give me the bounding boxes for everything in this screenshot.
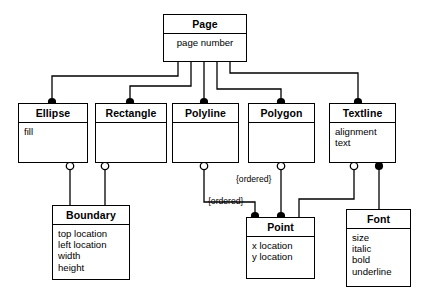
attribute-item: fill	[24, 126, 87, 137]
uml-class-diagram: Page page number Ellipse fill Rectangle …	[0, 0, 425, 303]
class-attributes-boundary: top location left location width height	[53, 225, 129, 275]
class-box-polyline[interactable]: Polyline	[172, 103, 239, 163]
class-attributes-textline: alignment text	[330, 123, 395, 150]
class-name-point: Point	[247, 218, 314, 237]
aggregation-marker-ellipse	[66, 162, 73, 169]
constraint-label-ordered-polyline: {ordered}	[208, 196, 243, 206]
class-box-page[interactable]: Page page number	[163, 14, 247, 62]
edge-page-rectangle	[130, 62, 191, 103]
edge-page-textline	[230, 62, 358, 103]
attribute-item: underline	[352, 266, 410, 277]
aggregation-markers	[66, 162, 357, 169]
class-name-page: Page	[164, 15, 246, 34]
aggregation-marker-polyline	[200, 162, 207, 169]
edge-polyline-point	[204, 163, 255, 217]
class-box-textline[interactable]: Textline alignment text	[329, 103, 396, 163]
class-name-font: Font	[347, 210, 410, 229]
aggregation-marker-rectangle	[101, 162, 108, 169]
attribute-item: height	[58, 262, 129, 273]
class-attributes-polyline	[173, 123, 238, 128]
class-name-boundary: Boundary	[53, 206, 129, 225]
edge-page-ellipse	[52, 62, 178, 103]
class-name-ellipse: Ellipse	[19, 104, 87, 123]
aggregation-marker-polygon	[277, 162, 284, 169]
attribute-item: x location	[252, 240, 314, 251]
attribute-item: page number	[164, 37, 246, 48]
class-box-rectangle[interactable]: Rectangle	[95, 103, 167, 163]
class-name-polygon: Polygon	[249, 104, 314, 123]
attribute-item: alignment	[335, 126, 395, 137]
class-box-ellipse[interactable]: Ellipse fill	[18, 103, 88, 163]
class-box-font[interactable]: Font size italic bold underline	[346, 209, 411, 287]
class-attributes-point: x location y location	[247, 237, 314, 264]
class-attributes-polygon	[249, 123, 314, 128]
attribute-item: bold	[352, 254, 410, 265]
class-attributes-font: size italic bold underline	[347, 229, 410, 279]
constraint-label-ordered-polygon: {ordered}	[236, 174, 271, 184]
class-name-rectangle: Rectangle	[96, 104, 166, 123]
class-name-polyline: Polyline	[173, 104, 238, 123]
class-box-point[interactable]: Point x location y location	[246, 217, 315, 279]
attribute-item: italic	[352, 243, 410, 254]
attribute-item: size	[352, 232, 410, 243]
attribute-item: width	[58, 250, 129, 261]
attribute-item: y location	[252, 251, 314, 262]
attribute-item: left location	[58, 239, 129, 250]
class-box-boundary[interactable]: Boundary top location left location widt…	[52, 205, 130, 280]
class-attributes-ellipse: fill	[19, 123, 87, 139]
class-attributes-rectangle	[96, 123, 166, 128]
class-name-textline: Textline	[330, 104, 395, 123]
aggregation-marker-textline	[350, 162, 357, 169]
class-attributes-page: page number	[164, 34, 246, 50]
class-box-polygon[interactable]: Polygon	[248, 103, 315, 163]
edge-page-polygon	[217, 62, 281, 103]
attribute-item: text	[335, 137, 395, 148]
attribute-item: top location	[58, 228, 129, 239]
composition-marker-font	[375, 162, 383, 170]
